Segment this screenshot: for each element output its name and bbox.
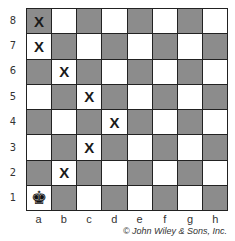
square-g4 [178,110,202,134]
file-label-f: f [152,213,177,225]
square-e4 [128,110,152,134]
square-c4 [77,110,101,134]
chessboard: XXXXXXX♚ [26,8,228,211]
square-f5 [153,85,177,109]
square-d4: X [102,110,126,134]
square-a1: ♚ [27,186,51,210]
square-f6 [153,60,177,84]
file-label-c: c [77,213,102,225]
x-marker: X [59,64,69,79]
file-label-d: d [102,213,127,225]
x-marker: X [59,165,69,180]
file-label-e: e [127,213,152,225]
rank-label-6: 6 [6,64,20,77]
rank-label-5: 5 [6,90,20,103]
square-a7: X [27,34,51,58]
rank-label-3: 3 [6,141,20,154]
square-h2 [203,161,227,185]
square-e7 [128,34,152,58]
rank-label-4: 4 [6,115,20,128]
x-marker: X [34,14,44,29]
square-c8 [77,9,101,33]
square-b5 [52,85,76,109]
square-b1 [52,186,76,210]
copyright-credit: © John Wiley & Sons, Inc. [123,226,227,236]
square-d6 [102,60,126,84]
square-h3 [203,135,227,159]
file-label-g: g [178,213,203,225]
square-h8 [203,9,227,33]
square-f4 [153,110,177,134]
square-e1 [128,186,152,210]
square-c6 [77,60,101,84]
square-d5 [102,85,126,109]
square-c3: X [77,135,101,159]
square-c2 [77,161,101,185]
square-h4 [203,110,227,134]
square-d1 [102,186,126,210]
square-f1 [153,186,177,210]
square-b2: X [52,161,76,185]
square-a5 [27,85,51,109]
square-e3 [128,135,152,159]
square-f2 [153,161,177,185]
file-label-h: h [203,213,228,225]
x-marker: X [34,39,44,54]
square-h7 [203,34,227,58]
square-g8 [178,9,202,33]
square-b8 [52,9,76,33]
square-h1 [203,186,227,210]
square-f8 [153,9,177,33]
file-label-a: a [26,213,51,225]
square-e8 [128,9,152,33]
square-d8 [102,9,126,33]
square-a2 [27,161,51,185]
square-f7 [153,34,177,58]
square-e6 [128,60,152,84]
square-c1 [77,186,101,210]
square-b4 [52,110,76,134]
square-d3 [102,135,126,159]
square-g3 [178,135,202,159]
square-c7 [77,34,101,58]
black-king-icon: ♚ [31,189,47,207]
square-b3 [52,135,76,159]
rank-label-8: 8 [6,14,20,27]
file-label-b: b [51,213,76,225]
square-d7 [102,34,126,58]
square-c5: X [77,85,101,109]
rank-label-1: 1 [6,191,20,204]
square-g2 [178,161,202,185]
square-g6 [178,60,202,84]
x-marker: X [84,89,94,104]
square-d2 [102,161,126,185]
rank-label-2: 2 [6,166,20,179]
square-a3 [27,135,51,159]
square-a4 [27,110,51,134]
square-g5 [178,85,202,109]
square-b7 [52,34,76,58]
square-a6 [27,60,51,84]
square-f3 [153,135,177,159]
square-a8: X [27,9,51,33]
square-b6: X [52,60,76,84]
square-g1 [178,186,202,210]
square-h5 [203,85,227,109]
square-e5 [128,85,152,109]
x-marker: X [84,140,94,155]
square-h6 [203,60,227,84]
square-g7 [178,34,202,58]
x-marker: X [109,115,119,130]
rank-label-7: 7 [6,39,20,52]
square-e2 [128,161,152,185]
